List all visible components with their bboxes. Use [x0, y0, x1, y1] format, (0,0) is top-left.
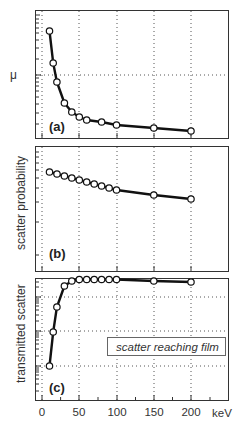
- panel-c: scatter reaching film (c) transmitted sc…: [14, 276, 229, 400]
- x-tick-100: 100: [107, 406, 126, 418]
- x-tick-0: 0: [39, 406, 45, 418]
- panel-c-ylabel: transmitted scatter: [14, 284, 28, 383]
- chart-figure: (a) μ: [0, 0, 242, 427]
- panel-a-label: (a): [49, 119, 65, 134]
- panel-a: (a) μ: [10, 11, 229, 139]
- panel-c-label: (c): [49, 380, 65, 395]
- x-axis-labels: 0 50 100 150 200 keV: [39, 406, 232, 419]
- panel-b: (b) scatter probability: [14, 147, 229, 272]
- panel-c-xticks: [42, 395, 210, 400]
- panel-a-ylabel: μ: [10, 68, 17, 82]
- x-axis-unit: keV: [212, 407, 232, 419]
- panel-a-curve: [50, 31, 192, 131]
- panel-c-yticks: [36, 282, 41, 391]
- panel-a-points: [46, 28, 194, 134]
- panel-a-yticks: [36, 15, 41, 124]
- x-tick-200: 200: [181, 406, 200, 418]
- annotation-text: scatter reaching film: [116, 341, 219, 353]
- panel-b-ylabel: scatter probability: [14, 156, 28, 250]
- x-tick-150: 150: [144, 406, 163, 418]
- panel-b-label: (b): [49, 246, 66, 261]
- x-tick-50: 50: [73, 406, 86, 418]
- panel-b-xticks: [42, 266, 191, 271]
- panel-b-yticks: [36, 152, 39, 255]
